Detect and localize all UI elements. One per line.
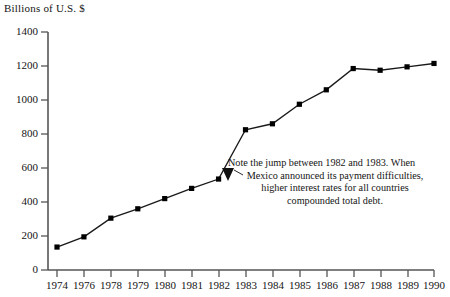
data-series-line (57, 63, 434, 247)
x-tick-marks (57, 270, 434, 277)
annotation-line-2: Mexico announced its payment difficultie… (228, 170, 442, 183)
y-tick-label-0: 0 (2, 263, 38, 275)
data-point-marker (81, 234, 86, 239)
data-point-marker (108, 216, 113, 221)
x-tick-label-1990: 1990 (417, 279, 450, 291)
y-tick-label-1400: 1400 (2, 25, 38, 37)
data-point-marker (378, 68, 383, 73)
annotation-line-4: compounded total debt. (228, 195, 442, 208)
y-tick-label-1000: 1000 (2, 93, 38, 105)
y-tick-label-800: 800 (2, 127, 38, 139)
data-point-marker (270, 121, 275, 126)
annotation-line-3: higher interest rates for all countries (228, 182, 442, 195)
y-tick-label-600: 600 (2, 161, 38, 173)
chart-annotation: Note the jump between 1982 and 1983. Whe… (228, 157, 442, 207)
annotation-line-1: Note the jump between 1982 and 1983. Whe… (228, 157, 442, 170)
y-tick-label-200: 200 (2, 229, 38, 241)
data-point-marker (243, 127, 248, 132)
data-point-marker (404, 64, 409, 69)
data-point-marker (135, 206, 140, 211)
y-tick-label-1200: 1200 (2, 59, 38, 71)
data-point-marker (189, 186, 194, 191)
data-point-marker (162, 196, 167, 201)
data-point-marker (324, 87, 329, 92)
data-point-marker (216, 176, 221, 181)
data-point-marker (54, 244, 59, 249)
data-point-marker (351, 66, 356, 71)
data-point-marker (297, 102, 302, 107)
y-tick-label-400: 400 (2, 195, 38, 207)
y-tick-marks (41, 32, 48, 270)
data-series-markers (54, 61, 436, 250)
data-point-marker (431, 61, 436, 66)
